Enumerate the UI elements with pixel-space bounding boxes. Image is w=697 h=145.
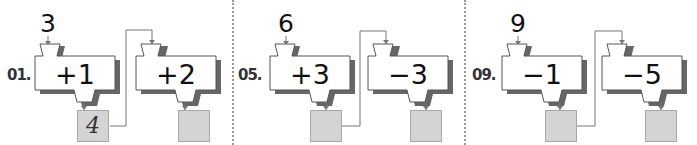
answer-value: 4 (86, 113, 100, 138)
problem-09: 09. 9 −1 −5 (464, 0, 697, 145)
answer-box[interactable] (178, 110, 210, 142)
machine-operation: −1 (501, 59, 583, 90)
machine-operation: +3 (269, 59, 351, 90)
machine-operation: +2 (135, 59, 217, 90)
answer-box[interactable] (545, 110, 577, 142)
answer-box[interactable] (410, 110, 442, 142)
machine-operation: −5 (601, 59, 683, 90)
answer-box[interactable] (310, 110, 342, 142)
machine-operation: −3 (367, 59, 449, 90)
answer-box[interactable]: 4 (77, 110, 109, 142)
answer-box[interactable] (645, 110, 677, 142)
machine-operation: +1 (34, 59, 116, 90)
problem-05: 05. 6 +3 −3 (232, 0, 464, 145)
problem-01: 01. 3 +1 +2 4 (0, 0, 232, 145)
